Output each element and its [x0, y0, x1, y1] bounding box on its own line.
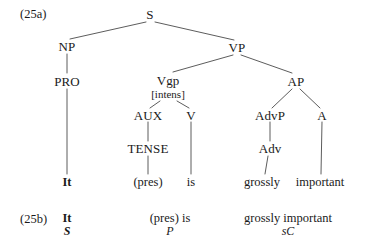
tree-node-tense: TENSE	[128, 142, 169, 155]
tree-node-a: A	[317, 109, 327, 122]
gloss-function-predicator: P	[150, 225, 191, 238]
tree-terminal-grossly: grossly	[244, 176, 280, 189]
gloss-function-subject: S	[62, 225, 71, 238]
gloss-item-subject: It S	[62, 212, 71, 238]
tree-terminal-is: is	[187, 176, 195, 189]
branch-ap-a	[300, 89, 320, 108]
branch-ap-advp	[272, 89, 292, 108]
tree-terminal-it: It	[62, 176, 71, 189]
gloss-item-predicator: (pres) is P	[150, 212, 191, 238]
tree-node-vgp: Vgp	[157, 74, 180, 87]
tree-node-np: NP	[59, 40, 76, 53]
gloss-function-subject-complement: sC	[244, 225, 332, 238]
tree-node-pro: PRO	[54, 75, 80, 88]
figure-canvas: (25a) S NP VP PRO Vgp AP AUX V AdvP A TE…	[0, 0, 365, 252]
tree-node-vp: VP	[229, 41, 246, 54]
gloss-item-subject-complement: grossly important sC	[244, 212, 332, 238]
branch-vp-vgp	[173, 55, 233, 72]
branch-vp-ap	[241, 55, 292, 73]
tree-node-advp: AdvP	[255, 109, 285, 122]
tree-node-ap: AP	[288, 75, 305, 88]
tree-terminal-important: important	[296, 176, 345, 189]
tree-node-adv: Adv	[259, 142, 282, 155]
branch-adv-grossly	[265, 156, 268, 174]
branch-s-np	[70, 22, 146, 39]
branch-s-vp	[155, 22, 234, 40]
tree-node-v: V	[186, 109, 196, 122]
branch-a-important	[321, 122, 322, 174]
example-label-25b: (25b)	[20, 213, 47, 226]
example-label-25a: (25a)	[20, 8, 46, 21]
tree-node-s: S	[146, 8, 153, 21]
tree-feature-intens: [intens]	[151, 89, 185, 100]
tree-node-aux: AUX	[134, 109, 162, 122]
tree-terminal-pres: (pres)	[133, 176, 162, 189]
